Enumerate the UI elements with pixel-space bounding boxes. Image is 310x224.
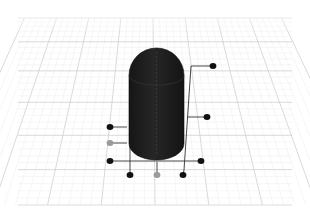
marker-bottom-center-icon: [154, 172, 161, 178]
marker-right-lower-icon: [198, 158, 205, 164]
marker-bottom-left-icon: [127, 172, 134, 178]
marker-mid-right-icon: [204, 114, 211, 120]
capsule-diagram: [0, 0, 310, 224]
capsule-shape: [129, 48, 184, 160]
marker-left-middle-icon: [107, 140, 114, 146]
marker-top-right-icon: [210, 63, 217, 69]
marker-left-lower-icon: [107, 158, 114, 164]
marker-left-upper-icon: [107, 124, 114, 130]
marker-bottom-right-icon: [180, 172, 187, 178]
